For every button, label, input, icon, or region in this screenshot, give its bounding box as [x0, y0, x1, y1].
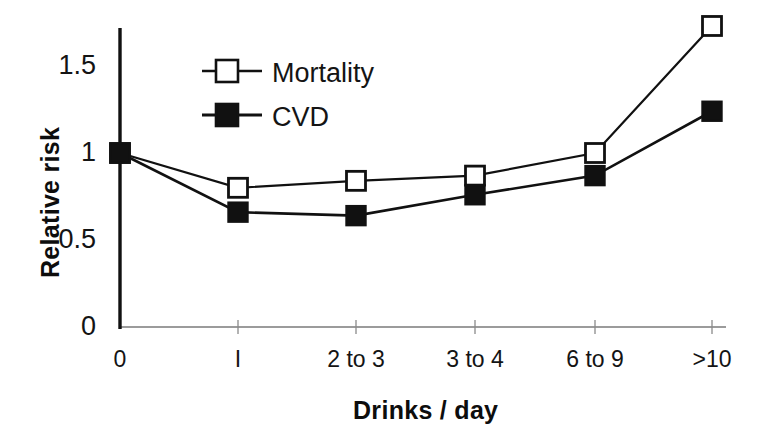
data-point-marker — [586, 166, 605, 185]
data-point-marker — [586, 144, 605, 163]
series-line-mortality — [120, 26, 712, 188]
open-square-icon — [216, 60, 238, 82]
data-point-marker — [229, 203, 248, 222]
data-point-marker — [466, 166, 485, 185]
data-point-marker — [466, 185, 485, 204]
data-point-marker — [347, 171, 366, 190]
series-line-cvd — [120, 111, 712, 215]
data-point-marker — [703, 102, 722, 121]
data-point-marker — [703, 16, 722, 35]
plot-area — [0, 0, 758, 441]
data-point-marker — [111, 144, 130, 163]
chart-figure: Relative risk 1.5 1 0.5 0 0 I 2 to 3 3 t… — [0, 0, 758, 441]
series-markers-mortality — [111, 16, 722, 197]
filled-square-icon — [216, 104, 238, 126]
data-point-marker — [229, 178, 248, 197]
data-point-marker — [347, 206, 366, 225]
series-markers-cvd — [111, 102, 722, 225]
legend-sample-cvd — [202, 104, 262, 126]
legend-sample-mortality — [202, 60, 262, 82]
